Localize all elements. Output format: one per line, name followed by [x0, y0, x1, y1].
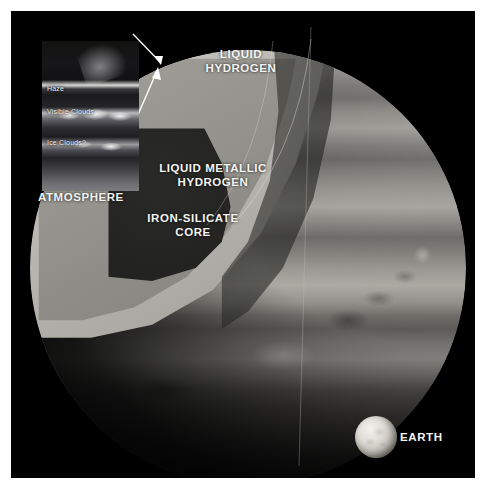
label-earth: EARTH: [400, 431, 443, 443]
inset-cloud-blob: [100, 143, 122, 151]
earth-scale-sphere: [355, 416, 397, 458]
label-iron-silicate-core: IRON-SILICATE CORE: [123, 211, 263, 239]
jupiter-interior-figure: Haze Visible Clouds Ice Clouds? LIQUID H…: [0, 0, 489, 498]
label-atmosphere: ATMOSPHERE: [38, 191, 124, 203]
label-liquid-hydrogen: LIQUID HYDROGEN: [186, 47, 296, 75]
inset-label-ice-clouds: Ice Clouds?: [47, 139, 86, 146]
label-liquid-metallic-hydrogen: LIQUID METALLIC HYDROGEN: [133, 161, 293, 189]
inset-cloud-blob: [108, 112, 132, 121]
image-plate: Haze Visible Clouds Ice Clouds? LIQUID H…: [11, 11, 475, 478]
inset-leader-arrowhead: [154, 56, 163, 65]
inset-label-visible-clouds: Visible Clouds: [47, 108, 94, 115]
inset-label-haze: Haze: [47, 85, 64, 92]
atmosphere-detail-inset: Haze Visible Clouds Ice Clouds?: [42, 41, 139, 191]
